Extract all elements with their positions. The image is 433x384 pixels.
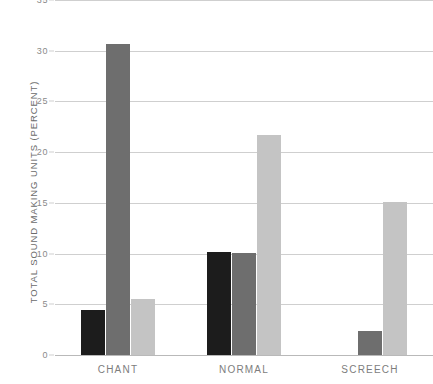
bar-chart: TOTAL SOUND MAKING UNITS (PERCENT) 05101… xyxy=(0,0,433,384)
y-tick-mark xyxy=(49,304,54,305)
bar-group: CHANT xyxy=(55,0,181,355)
bar xyxy=(106,44,130,355)
y-tick-mark xyxy=(49,253,54,254)
bar-groups: CHANTNORMALSCREECH xyxy=(55,0,433,355)
plot-area: 05101520253035 CHANTNORMALSCREECH xyxy=(55,0,433,355)
x-axis-category-label: NORMAL xyxy=(219,364,269,375)
y-tick-label: 30 xyxy=(37,46,48,56)
y-tick-label: 25 xyxy=(37,96,48,106)
bar-group: NORMAL xyxy=(181,0,307,355)
x-axis-category-label: CHANT xyxy=(98,364,138,375)
bar xyxy=(358,331,382,355)
y-axis-title: TOTAL SOUND MAKING UNITS (PERCENT) xyxy=(22,0,44,384)
y-tick-label: 20 xyxy=(37,147,48,157)
axis-baseline xyxy=(55,355,433,356)
y-tick-label: 15 xyxy=(37,198,48,208)
y-tick-label: 10 xyxy=(37,249,48,259)
y-tick-mark xyxy=(49,101,54,102)
y-tick-mark xyxy=(49,50,54,51)
bar-group: SCREECH xyxy=(307,0,433,355)
y-tick-mark xyxy=(49,202,54,203)
y-tick-mark xyxy=(49,355,54,356)
y-tick-mark xyxy=(49,0,54,1)
bar xyxy=(81,310,105,355)
x-axis-category-label: SCREECH xyxy=(341,364,398,375)
bar xyxy=(232,253,256,355)
y-tick-label: 35 xyxy=(37,0,48,5)
y-tick-label: 5 xyxy=(42,299,48,309)
y-tick-label: 0 xyxy=(42,350,48,360)
bar xyxy=(383,202,407,355)
y-tick-mark xyxy=(49,152,54,153)
bar xyxy=(207,252,231,355)
bar xyxy=(131,299,155,355)
bar xyxy=(257,135,281,355)
